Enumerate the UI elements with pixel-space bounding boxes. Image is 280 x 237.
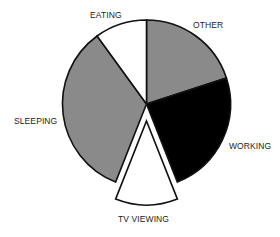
label-eating: EATING [90,11,122,20]
label-sleeping: SLEEPING [14,117,57,126]
label-tv-viewing: TV VIEWING [118,215,169,224]
label-other: OTHER [193,21,223,30]
pie-chart: EATING OTHER SLEEPING WORKING TV VIEWING [0,0,280,237]
label-working: WORKING [229,142,271,151]
